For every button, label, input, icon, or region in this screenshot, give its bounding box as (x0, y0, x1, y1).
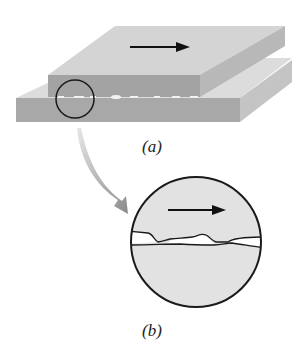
magnified-view (128, 177, 264, 307)
upper-block-front-face (48, 75, 200, 97)
label-a: (a) (142, 137, 162, 157)
zoom-curved-arrow-icon (77, 128, 128, 214)
label-b: (b) (142, 321, 162, 341)
friction-diagram (0, 0, 304, 353)
lower-plate-front-face (16, 98, 240, 122)
